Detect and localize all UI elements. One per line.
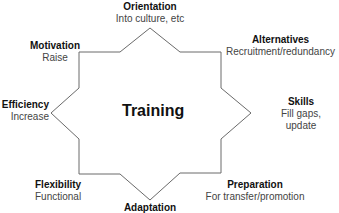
- node-title: Orientation: [105, 1, 195, 13]
- center-label-training: Training: [122, 101, 178, 121]
- node-subtitle: Increase: [0, 111, 49, 123]
- node-subtitle: Functional: [35, 191, 105, 203]
- node-subtitle: For transfer/promotion: [200, 191, 310, 203]
- node-motivation: Motivation Raise: [25, 40, 85, 64]
- node-preparation: Preparation For transfer/promotion: [200, 179, 310, 203]
- node-title: Preparation: [200, 179, 310, 191]
- node-alternatives: Alternatives Recruitment/redundancy: [222, 34, 339, 58]
- node-title: Flexibility: [35, 179, 105, 191]
- node-skills: Skills Fill gaps, update: [266, 96, 336, 132]
- node-title: Efficiency: [0, 99, 49, 111]
- node-title: Adaptation: [110, 202, 190, 213]
- node-orientation: Orientation Into culture, etc: [105, 1, 195, 25]
- node-title: Motivation: [25, 40, 85, 52]
- node-subtitle: Into culture, etc: [105, 13, 195, 25]
- node-title: Alternatives: [222, 34, 339, 46]
- node-title: Skills: [266, 96, 336, 108]
- node-subtitle: Fill gaps,: [266, 108, 336, 120]
- node-subtitle: Recruitment/redundancy: [222, 46, 339, 58]
- node-adaptation: Adaptation: [110, 202, 190, 213]
- node-efficiency: Efficiency Increase: [0, 99, 49, 123]
- node-flexibility: Flexibility Functional: [35, 179, 105, 203]
- node-subtitle-line2: update: [266, 120, 336, 132]
- node-subtitle: Raise: [25, 52, 85, 64]
